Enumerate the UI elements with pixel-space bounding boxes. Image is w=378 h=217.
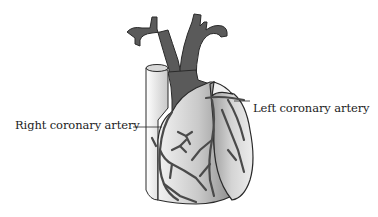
heart-diagram: Right coronary artery Left coronary arte…	[0, 0, 378, 217]
label-left-coronary-artery: Left coronary artery	[253, 101, 369, 115]
label-right-coronary-artery: Right coronary artery	[15, 118, 140, 132]
